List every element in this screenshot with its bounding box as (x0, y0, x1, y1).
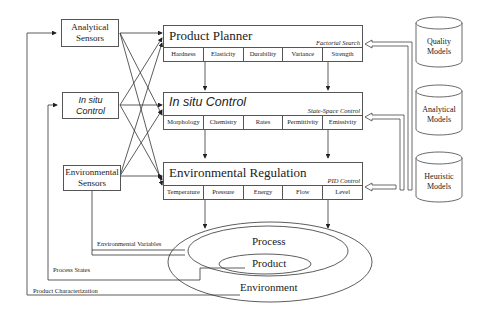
variable-cell: Pressure (204, 186, 244, 199)
environmental-sensors-box: Environmental Sensors (63, 165, 121, 191)
variable-cell: Variance (283, 48, 323, 61)
heuristic-models-db: HeuristicModels (414, 150, 464, 205)
controller-method: Factorial Search (316, 39, 360, 46)
process-states-label: Process States (53, 266, 90, 273)
analytical-models-db: AnalyticalModels (414, 83, 464, 138)
sensor-label: In situ (78, 95, 102, 106)
variable-cell: Durability (244, 48, 284, 61)
environmental-variables-label: Environmental Variables (97, 240, 161, 247)
product-planner-box: Product Planner Factorial Search Hardnes… (163, 25, 363, 62)
in-situ-control-controller-box: In situ Control State-Space Control Morp… (163, 92, 363, 130)
variable-cell: Rates (244, 116, 284, 129)
variable-cell: Energy (244, 186, 284, 199)
environment-label: Environment (240, 281, 297, 293)
variable-cell: Level (323, 186, 362, 199)
controller-title: Environmental Regulation (169, 165, 307, 181)
sensor-label: Sensors (76, 33, 104, 44)
product-characterization-label: Product Characterization (33, 287, 98, 294)
quality-models-db: QualityModels (414, 15, 464, 70)
environmental-regulation-box: Environmental Regulation PID Control Tem… (163, 162, 363, 200)
variable-cell: Permittivity (283, 116, 323, 129)
in-situ-control-box: In situ Control (62, 92, 119, 119)
sensor-label: Analytical (71, 22, 109, 33)
variable-cell: Temperature (164, 186, 204, 199)
variable-cell: Strength (323, 48, 362, 61)
sensor-label: Sensors (78, 178, 106, 189)
controller-title: Product Planner (169, 28, 252, 44)
sensor-label: Control (76, 106, 105, 117)
controller-method: PID Control (328, 177, 360, 184)
process-label: Process (252, 235, 286, 247)
variable-cell: Emissivity (323, 116, 362, 129)
variable-cell: Hardness (164, 48, 204, 61)
product-label: Product (252, 257, 286, 269)
variable-cell: Chemistry (204, 116, 244, 129)
analytical-sensors-box: Analytical Sensors (61, 19, 119, 47)
controller-title: In situ Control (169, 95, 246, 109)
variable-cell: Elasticity (204, 48, 244, 61)
variable-cell: Flow (283, 186, 323, 199)
sensor-label: Environmental (65, 167, 119, 178)
variable-cell: Morphology (164, 116, 204, 129)
controller-method: State-Space Control (308, 107, 360, 114)
